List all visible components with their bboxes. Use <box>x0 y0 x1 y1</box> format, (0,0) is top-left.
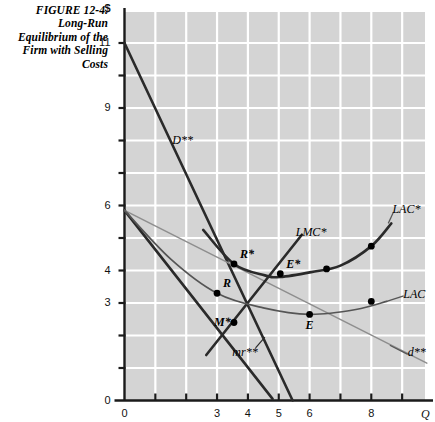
curve-label-mrstarstar: mr** <box>232 345 257 360</box>
y-axis-title: $ <box>0 2 111 14</box>
point-label-rstar: R* <box>240 247 254 262</box>
point-label-e: E <box>306 318 314 333</box>
point-mstar <box>231 319 238 326</box>
curve-label-dstarstar: d** <box>408 345 426 360</box>
point-e <box>306 311 313 318</box>
curve-label-lac: LAC <box>403 287 425 302</box>
point-rstar <box>231 261 238 268</box>
curve-label-dstarstar: D** <box>172 133 193 148</box>
y-tick-label-6: 6 <box>0 199 111 211</box>
point-label-mstar: M* <box>214 315 231 330</box>
point-lac-dot-1 <box>368 298 375 305</box>
x-axis-title: Q <box>421 407 430 422</box>
point-label-r: R <box>223 276 231 291</box>
caption-line-5: Costs <box>82 58 108 70</box>
point-estar <box>277 270 284 277</box>
y-tick-label-4: 4 <box>0 264 111 276</box>
x-tick-label-6: 6 <box>298 407 322 419</box>
curve-label-lacstar: LAC* <box>392 202 420 217</box>
point-r <box>214 290 221 297</box>
x-tick-label-5: 5 <box>267 407 291 419</box>
caption-line-2: Long-Run <box>58 17 108 29</box>
y-tick-label-3: 3 <box>0 296 111 308</box>
y-tick-label-9: 9 <box>0 101 111 113</box>
y-tick-label-11: 11 <box>0 36 111 48</box>
point-label-estar: E* <box>286 257 300 272</box>
x-tick-label-3: 3 <box>205 407 229 419</box>
x-tick-label-4: 4 <box>236 407 260 419</box>
y-tick-label-0: 0 <box>0 394 111 406</box>
point-lac-star-dot-2 <box>368 243 375 250</box>
point-lac-star-dot-1 <box>323 265 330 272</box>
x-tick-label-8: 8 <box>359 407 383 419</box>
x-tick-label-0: 0 <box>113 407 137 419</box>
curve-label-lmcstar: LMC* <box>296 225 327 240</box>
